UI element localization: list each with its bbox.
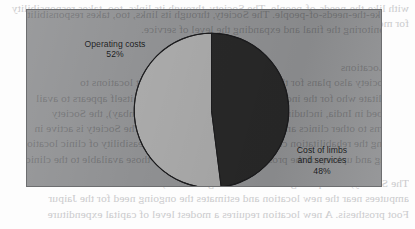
slice-label-name: Cost of limbs — [280, 145, 364, 155]
slice-label-value: 52% — [63, 49, 167, 59]
bleed-line: amputees near the new location and estim… — [0, 191, 415, 206]
pie-chart: with like-the-needs-of-people. The Socie… — [26, 9, 382, 187]
pie-slice — [212, 33, 289, 187]
slice-label-name-cont: and services — [280, 155, 364, 165]
slice-label-cost-of-limbs-and-services: Cost of limbs and services 48% — [280, 145, 364, 176]
slice-label-value: 48% — [280, 166, 364, 176]
bleed-line: with like-the-needs-of-people. The Socie… — [26, 9, 382, 22]
slice-label-operating-costs: Operating costs 52% — [63, 39, 167, 60]
bleed-line: Foot prosthesis. A new location requires… — [0, 207, 415, 222]
slice-label-name: Operating costs — [63, 39, 167, 49]
scanned-page: with like-the-needs-of-people. The Socie… — [0, 0, 415, 229]
